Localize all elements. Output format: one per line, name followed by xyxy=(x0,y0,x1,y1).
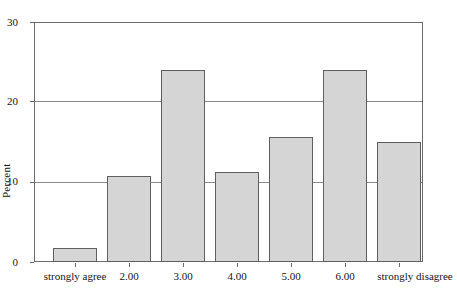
x-tick-mark-2 xyxy=(129,263,130,267)
x-tick-label-2: 2.00 xyxy=(104,270,154,282)
bar-strongly-agree xyxy=(53,248,97,262)
x-tick-label-strongly-disagree: strongly disagree xyxy=(355,270,457,282)
x-tick-mark-6 xyxy=(345,263,346,267)
x-tick-label-5: 5.00 xyxy=(266,270,316,282)
y-axis-title: Percent xyxy=(0,128,16,198)
x-tick-mark-7 xyxy=(399,263,400,267)
x-tick-mark-1 xyxy=(75,263,76,267)
bar-2 xyxy=(107,176,151,262)
x-tick-mark-4 xyxy=(237,263,238,267)
y-tick-label-10: 10 xyxy=(0,176,18,187)
bar-5 xyxy=(269,137,313,262)
bar-3 xyxy=(161,70,205,262)
x-tick-label-3: 3.00 xyxy=(158,270,208,282)
x-tick-mark-3 xyxy=(183,263,184,267)
y-tick-mark-0 xyxy=(30,262,34,263)
x-tick-mark-5 xyxy=(291,263,292,267)
bar-4 xyxy=(215,172,259,262)
y-tick-label-20: 20 xyxy=(0,96,18,107)
bar-6 xyxy=(323,70,367,262)
bars-layer xyxy=(34,22,423,262)
y-tick-label-30: 30 xyxy=(0,17,18,28)
y-tick-label-0: 0 xyxy=(0,257,18,268)
x-tick-label-4: 4.00 xyxy=(212,270,262,282)
bar-strongly-disagree xyxy=(377,142,421,262)
